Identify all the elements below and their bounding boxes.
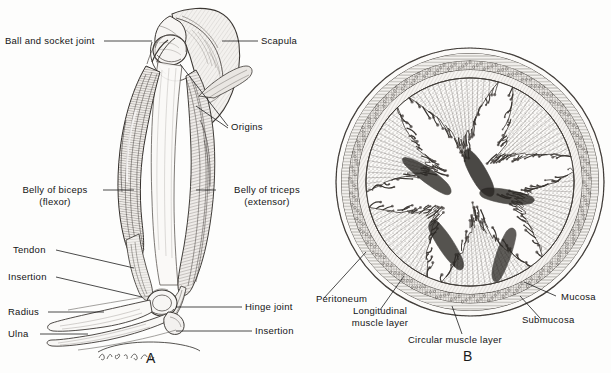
label-tendon: Tendon — [13, 244, 46, 256]
label-circular-muscle-layer: Circular muscle layer — [408, 334, 502, 346]
label-insertion-right: Insertion — [255, 325, 294, 337]
label-submucosa: Submucosa — [522, 314, 574, 326]
label-belly-of-biceps-line2: (flexor) — [8, 196, 102, 208]
label-belly-of-biceps: Belly of biceps (flexor) — [8, 184, 102, 207]
label-peritoneum: Peritoneum — [316, 293, 367, 305]
label-ball-and-socket-joint: Ball and socket joint — [5, 35, 95, 47]
label-belly-of-triceps-line2: (extensor) — [219, 196, 315, 208]
label-radius: Radius — [8, 306, 39, 318]
label-mucosa: Mucosa — [561, 291, 596, 303]
panel-letter-a: A — [146, 350, 155, 366]
label-ulna: Ulna — [8, 328, 29, 340]
label-longitudinal-line1: Longitudinal — [330, 305, 430, 317]
mucosa-layer — [366, 78, 574, 286]
label-hinge-joint: Hinge joint — [245, 301, 293, 313]
label-longitudinal-line2: muscle layer — [330, 317, 430, 329]
panel-letter-b: B — [463, 348, 472, 364]
label-belly-of-biceps-line1: Belly of biceps — [8, 184, 102, 196]
label-belly-of-triceps: Belly of triceps (extensor) — [219, 184, 315, 207]
label-origins: Origins — [231, 121, 263, 133]
label-insertion-left: Insertion — [8, 271, 47, 283]
label-scapula: Scapula — [261, 35, 297, 47]
label-belly-of-triceps-line1: Belly of triceps — [219, 184, 315, 196]
label-longitudinal-muscle-layer: Longitudinal muscle layer — [330, 305, 430, 328]
